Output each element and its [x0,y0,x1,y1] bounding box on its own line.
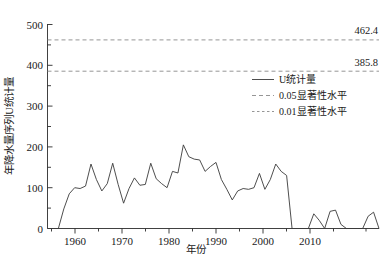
chart-legend: U统计量 0.05显著性水平 0.01显著性水平 [252,73,347,117]
threshold-label-462: 462.4 [354,25,378,36]
x-tick-label-1960: 1960 [64,235,87,247]
y-tick-label-400: 400 [27,59,44,71]
y-tick-label-100: 100 [27,182,44,194]
legend-label-u-statistic: U统计量 [279,73,316,85]
x-tick-label-2000: 2000 [252,235,275,247]
x-tick-label-1980: 1980 [158,235,181,247]
threshold-label-385: 385.8 [354,57,378,68]
legend-label-001-level: 0.01显著性水平 [279,105,347,117]
precipitation-u-statistic-chart: 0 100 200 300 400 500 1960 1970 [0,0,385,266]
x-tick-label-2010: 2010 [299,235,322,247]
y-tick-label-500: 500 [27,19,44,31]
y-axis-minor-ticks [48,45,52,208]
y-tick-label-300: 300 [27,100,44,112]
y-axis-title: 年降水量序列U统计量 [3,76,15,175]
x-axis-title: 年份 [186,243,207,255]
x-tick-label-1990: 1990 [205,235,228,247]
y-tick-label-0: 0 [38,223,44,235]
legend-label-005-level: 0.05显著性水平 [279,89,347,101]
chart-container: 0 100 200 300 400 500 1960 1970 [0,0,385,266]
u-statistic-series-line [48,145,380,229]
y-tick-label-200: 200 [27,141,44,153]
x-tick-label-1970: 1970 [111,235,134,247]
